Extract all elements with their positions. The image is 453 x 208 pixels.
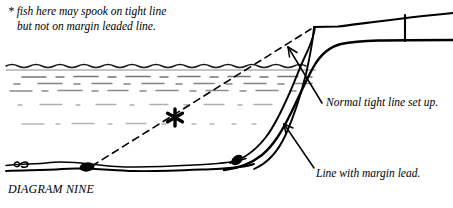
figure-caption: DIAGRAM NINE bbox=[8, 182, 94, 197]
dashed-line-of-sight bbox=[92, 29, 311, 166]
spook-note-line-2: but not on margin leaded line. bbox=[8, 19, 166, 34]
water-surface-wavy-line bbox=[6, 65, 316, 71]
spook-note-line-1: * fish here may spook on tight line bbox=[8, 4, 166, 19]
water-texture-dashes bbox=[10, 77, 312, 125]
label-margin-lead-line: Line with margin lead. bbox=[316, 166, 420, 181]
diagram-nine-figure: * fish here may spook on tight line but … bbox=[0, 0, 453, 208]
rod bbox=[314, 13, 453, 27]
arrow-margin-lead-line bbox=[284, 124, 314, 168]
tight-line bbox=[254, 27, 314, 169]
lake-bed bbox=[6, 159, 254, 172]
label-normal-tight-line: Normal tight line set up. bbox=[326, 95, 438, 110]
spook-note: * fish here may spook on tight line but … bbox=[8, 4, 166, 33]
